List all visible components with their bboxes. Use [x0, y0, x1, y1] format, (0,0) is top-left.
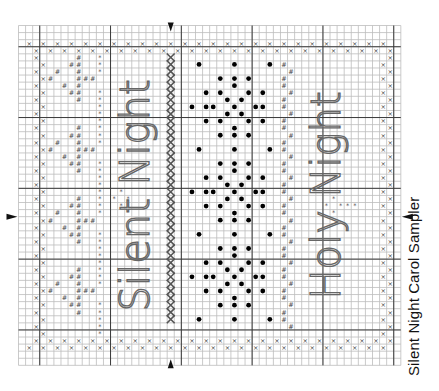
- cross-stitch: ×: [387, 209, 392, 217]
- cross-stitch: ×: [387, 139, 392, 147]
- center-arrow-left-icon: [7, 214, 18, 220]
- cross-stitch: ×: [147, 337, 152, 345]
- dot-stitch: [260, 189, 265, 194]
- dot-stitch: [239, 112, 244, 117]
- dot-stitch: [232, 317, 237, 322]
- dot-stitch: [246, 289, 251, 294]
- dot-stitch: [253, 105, 258, 110]
- cross-stitch: ×: [48, 47, 53, 55]
- cross-stitch: ×: [133, 337, 138, 345]
- hash-stitch: #: [48, 75, 53, 83]
- band-cross-stitch: [167, 61, 175, 69]
- hash-stitch: #: [76, 167, 81, 175]
- dot-stitch: [218, 204, 223, 209]
- cross-stitch: ×: [380, 245, 385, 253]
- cross-stitch: ×: [380, 217, 385, 225]
- center-arrow-top-icon: [168, 23, 174, 32]
- cross-stitch: ×: [281, 344, 286, 352]
- dot-stitch: [232, 303, 237, 308]
- band-cross-stitch: [167, 294, 175, 302]
- cross-stitch: ×: [380, 117, 385, 125]
- hash-stitch: #: [69, 61, 74, 69]
- hash-stitch: #: [281, 103, 286, 111]
- cross-stitch: ×: [41, 231, 46, 239]
- cross-stitch: ×: [387, 238, 392, 246]
- band-cross-stitch: [167, 117, 175, 125]
- dot-stitch: [204, 204, 209, 209]
- cross-stitch: ×: [133, 47, 138, 55]
- cross-stitch: ×: [310, 40, 315, 48]
- cross-stitch: ×: [182, 344, 187, 352]
- cross-stitch: ×: [380, 146, 385, 154]
- cross-stitch: ×: [33, 124, 38, 132]
- hash-stitch: #: [288, 110, 293, 118]
- cross-stitch: ×: [288, 337, 293, 345]
- hash-stitch: #: [288, 174, 293, 182]
- hash-stitch: #: [281, 124, 286, 132]
- cross-stitch: ×: [239, 344, 244, 352]
- cross-stitch: ×: [33, 224, 38, 232]
- hash-stitch: #: [69, 301, 74, 309]
- band-cross-stitch: [167, 110, 175, 118]
- cross-stitch: ×: [380, 103, 385, 111]
- cross-stitch: ×: [317, 337, 322, 345]
- hash-stitch: #: [281, 294, 286, 302]
- star-stitch: *: [98, 139, 102, 147]
- dot-stitch: [260, 204, 265, 209]
- hash-stitch: #: [83, 217, 88, 225]
- dot-stitch: [204, 119, 209, 124]
- cross-stitch: ×: [55, 40, 60, 48]
- dot-stitch: [246, 119, 251, 124]
- dot-stitch: [197, 62, 202, 67]
- cross-stitch: ×: [161, 337, 166, 345]
- cross-stitch: ×: [331, 47, 336, 55]
- hash-stitch: #: [69, 202, 74, 210]
- band-cross-stitch: [167, 68, 175, 76]
- dot-stitch: [211, 274, 216, 279]
- hash-stitch: #: [281, 146, 286, 154]
- dot-stitch: [218, 175, 223, 180]
- dot-stitch: [218, 289, 223, 294]
- band-cross-stitch: [167, 96, 175, 104]
- cross-stitch: ×: [267, 40, 272, 48]
- cross-stitch: ×: [41, 344, 46, 352]
- cross-stitch: ×: [387, 309, 392, 317]
- cross-stitch: ×: [41, 146, 46, 154]
- dot-stitch: [218, 90, 223, 95]
- band-cross-stitch: [167, 209, 175, 217]
- hash-stitch: #: [69, 231, 74, 239]
- cross-stitch: ×: [387, 68, 392, 76]
- band-cross-stitch: [167, 181, 175, 189]
- cross-stitch: ×: [338, 344, 343, 352]
- dot-stitch: [246, 246, 251, 251]
- hash-stitch: #: [76, 96, 81, 104]
- band-cross-stitch: [167, 230, 175, 238]
- hash-stitch: #: [288, 132, 293, 140]
- cross-stitch: ×: [33, 181, 38, 189]
- hash-stitch: #: [281, 231, 286, 239]
- cross-stitch: ×: [62, 337, 67, 345]
- cross-stitch: ×: [239, 40, 244, 48]
- star-stitch: *: [98, 68, 102, 76]
- cross-stitch: ×: [387, 224, 392, 232]
- star-stitch: *: [353, 202, 357, 210]
- cross-stitch: ×: [267, 344, 272, 352]
- hash-stitch: #: [281, 252, 286, 260]
- hash-stitch: #: [69, 132, 74, 140]
- cross-stitch: ×: [203, 337, 208, 345]
- cross-stitch: ×: [182, 40, 187, 48]
- cross-stitch: ×: [41, 75, 46, 83]
- cross-stitch: ×: [359, 47, 364, 55]
- cross-stitch: ×: [62, 47, 67, 55]
- dot-stitch: [225, 182, 230, 187]
- band-cross-stitch: [167, 223, 175, 231]
- cross-stitch: ×: [345, 47, 350, 55]
- cross-stitch: ×: [41, 188, 46, 196]
- cross-stitch: ×: [387, 124, 392, 132]
- band-cross-stitch: [167, 82, 175, 90]
- band-cross-stitch: [167, 131, 175, 139]
- band-cross-stitch: [167, 245, 175, 253]
- band-cross-stitch: [167, 280, 175, 288]
- cross-stitch: ×: [33, 195, 38, 203]
- cross-stitch: ×: [387, 167, 392, 175]
